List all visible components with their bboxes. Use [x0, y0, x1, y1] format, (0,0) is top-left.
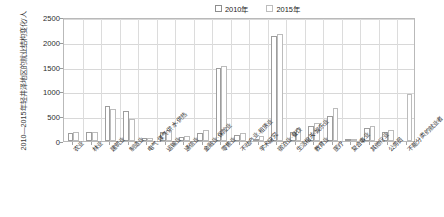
y-tick-label: 500: [28, 113, 60, 122]
bar[interactable]: [110, 109, 116, 141]
bar[interactable]: [277, 34, 283, 141]
legend-item-2010[interactable]: 2010年: [215, 3, 248, 14]
y-tick-mark: [60, 142, 63, 143]
chart-legend: 2010年 2015年: [215, 3, 300, 14]
bar-series-layer: [64, 19, 414, 141]
legend-label-2015: 2015年: [276, 3, 299, 14]
plot-area: [63, 18, 415, 142]
legend-label-2010: 2010年: [225, 3, 248, 14]
legend-swatch-2010: [215, 5, 222, 12]
bar[interactable]: [129, 119, 135, 141]
y-axis-title: 2010—2015年轻井泽地区的就业结构变化/人: [18, 6, 28, 156]
bar[interactable]: [407, 94, 413, 141]
y-tick-label: 1000: [28, 88, 60, 97]
legend-swatch-2015: [266, 5, 273, 12]
y-tick-label: 1500: [28, 63, 60, 72]
y-tick-label: 0: [28, 138, 60, 147]
y-tick-label: 2500: [28, 14, 60, 23]
bar[interactable]: [333, 108, 339, 141]
y-tick-label: 2000: [28, 38, 60, 47]
legend-item-2015[interactable]: 2015年: [266, 3, 299, 14]
